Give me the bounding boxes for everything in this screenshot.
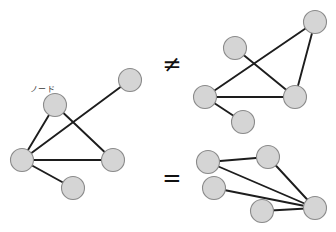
graph-node	[102, 149, 125, 172]
graph-node	[11, 149, 34, 172]
graph-node	[224, 37, 247, 60]
graph-node	[251, 200, 274, 223]
graph-node	[304, 11, 327, 34]
graph-node	[284, 86, 307, 109]
graph-node	[197, 151, 220, 174]
graph-isomorphism-figure: ≠= ノード	[0, 0, 336, 232]
equal-symbol: =	[162, 165, 181, 191]
graph-node	[44, 94, 67, 117]
not-equal-symbol: ≠	[162, 51, 181, 77]
graph-node	[257, 146, 280, 169]
graph-node	[232, 111, 255, 134]
graph-node	[62, 177, 85, 200]
graph-node	[203, 177, 226, 200]
graph-node	[194, 86, 217, 109]
top-right-graph-nodes	[194, 11, 327, 134]
graph-node	[304, 197, 327, 220]
graph-node	[119, 69, 142, 92]
node-annotation-label: ノード	[30, 85, 55, 94]
relation-symbols-layer: ≠=	[162, 51, 181, 191]
